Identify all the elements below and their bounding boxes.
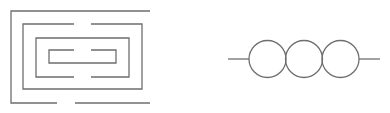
diagram-canvas [0, 0, 390, 113]
three-circle-chain [228, 41, 380, 78]
maze-wall-4 [49, 50, 116, 63]
maze-wall-2 [23, 24, 142, 89]
circle-1 [249, 41, 286, 78]
rectangular-maze [11, 11, 150, 103]
circle-2 [286, 41, 323, 78]
circle-3 [322, 41, 359, 78]
maze-wall-3 [36, 38, 129, 77]
